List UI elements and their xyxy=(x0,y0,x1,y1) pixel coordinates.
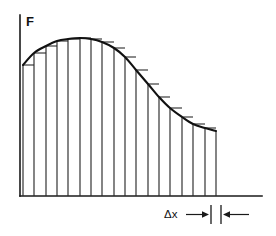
delta-x-annotation: Δx xyxy=(164,205,249,224)
delta-x-arrow-right-icon xyxy=(202,211,209,217)
riemann-rectangles xyxy=(23,38,216,196)
delta-x-label: Δx xyxy=(164,208,178,220)
riemann-sum-chart: F Δx xyxy=(0,0,276,236)
y-axis-label: F xyxy=(26,14,34,29)
riemann-sum-figure: F Δx xyxy=(0,0,276,236)
delta-x-arrow-left-icon xyxy=(223,211,230,217)
